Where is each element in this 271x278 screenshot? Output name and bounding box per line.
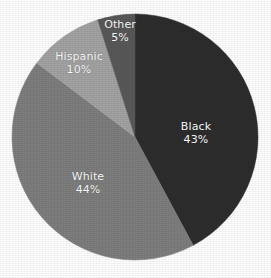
pie-chart: Black 43% White 44% Hispanic 10% Other 5… [0, 0, 271, 278]
pie-slice-label-value: 10% [55, 63, 103, 76]
pie-slice-label-value: 43% [181, 133, 211, 146]
pie-slice-label-name: Black [181, 120, 211, 133]
pie-slice-label-value: 5% [104, 31, 136, 44]
pie-slice-label-name: White [72, 170, 105, 183]
pie-slice-label-white: White 44% [72, 170, 105, 196]
pie-slice-group [12, 14, 258, 260]
pie-slice-label-black: Black 43% [181, 120, 211, 146]
pie-slice-label-name: Hispanic [55, 50, 103, 63]
pie-slice-label-hispanic: Hispanic 10% [55, 50, 103, 76]
pie-slice-label-name: Other [104, 18, 136, 31]
pie-slice-label-other: Other 5% [104, 18, 136, 44]
pie-slice-label-value: 44% [72, 183, 105, 196]
